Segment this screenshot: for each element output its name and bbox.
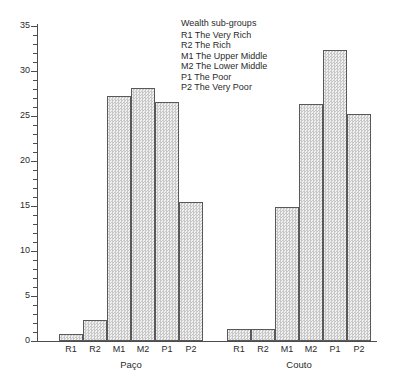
x-axis-tick-label: M1 <box>107 345 131 354</box>
bar-couto-m2 <box>299 104 323 341</box>
legend-title: Wealth sub-groups <box>181 18 267 29</box>
y-axis-tick-label: 15 <box>20 201 30 210</box>
y-axis-tick-label: 10 <box>20 246 30 255</box>
bar-paço-m2 <box>131 88 155 341</box>
x-axis-tick-label: R1 <box>59 345 83 354</box>
legend-item-p2: P2 The Very Poor <box>181 82 267 93</box>
bar-paço-r2 <box>83 320 107 341</box>
bar-paço-m1 <box>107 96 131 341</box>
x-axis-tick-label: P2 <box>347 345 371 354</box>
legend-item-r1: R1 The Very Rich <box>181 30 267 41</box>
bar-paço-r1 <box>59 334 83 341</box>
legend-item-m1: M1 The Upper Middle <box>181 51 267 62</box>
legend-item-p1: P1 The Poor <box>181 72 267 83</box>
y-axis-tick-label: 35 <box>20 21 30 30</box>
bar-couto-p1 <box>323 50 347 341</box>
bar-couto-m1 <box>275 207 299 341</box>
x-axis-line <box>37 341 377 342</box>
x-axis-tick-label: R1 <box>227 345 251 354</box>
bar-chart: 05101520253035 R1R2M1M2P1P2R1R2M1M2P1P2 … <box>0 0 393 391</box>
legend-item-r2: R2 The Rich <box>181 40 267 51</box>
x-axis-tick-label: P2 <box>179 345 203 354</box>
y-axis-major-tick <box>31 341 37 342</box>
x-axis-tick-label: P1 <box>323 345 347 354</box>
y-axis-tick-label: 30 <box>20 66 30 75</box>
group-label-couto: Couto <box>227 360 371 370</box>
y-axis-tick-label: 5 <box>25 291 30 300</box>
x-axis-tick-label: R2 <box>83 345 107 354</box>
y-axis-tick-label: 25 <box>20 111 30 120</box>
bar-couto-r2 <box>251 329 275 341</box>
bar-paço-p2 <box>179 202 203 341</box>
bar-paço-p1 <box>155 102 179 341</box>
x-axis-tick-label: M2 <box>131 345 155 354</box>
bar-couto-p2 <box>347 114 371 341</box>
x-axis-tick-label: R2 <box>251 345 275 354</box>
x-axis-tick-label: M1 <box>275 345 299 354</box>
group-label-paço: Paço <box>59 360 203 370</box>
bar-couto-r1 <box>227 329 251 341</box>
y-axis-tick-label: 0 <box>25 336 30 345</box>
legend: Wealth sub-groups R1 The Very Rich R2 Th… <box>181 18 267 93</box>
x-axis-tick-label: M2 <box>299 345 323 354</box>
x-axis-tick-label: P1 <box>155 345 179 354</box>
legend-item-m2: M2 The Lower Middle <box>181 61 267 72</box>
y-axis-tick-label: 20 <box>20 156 30 165</box>
